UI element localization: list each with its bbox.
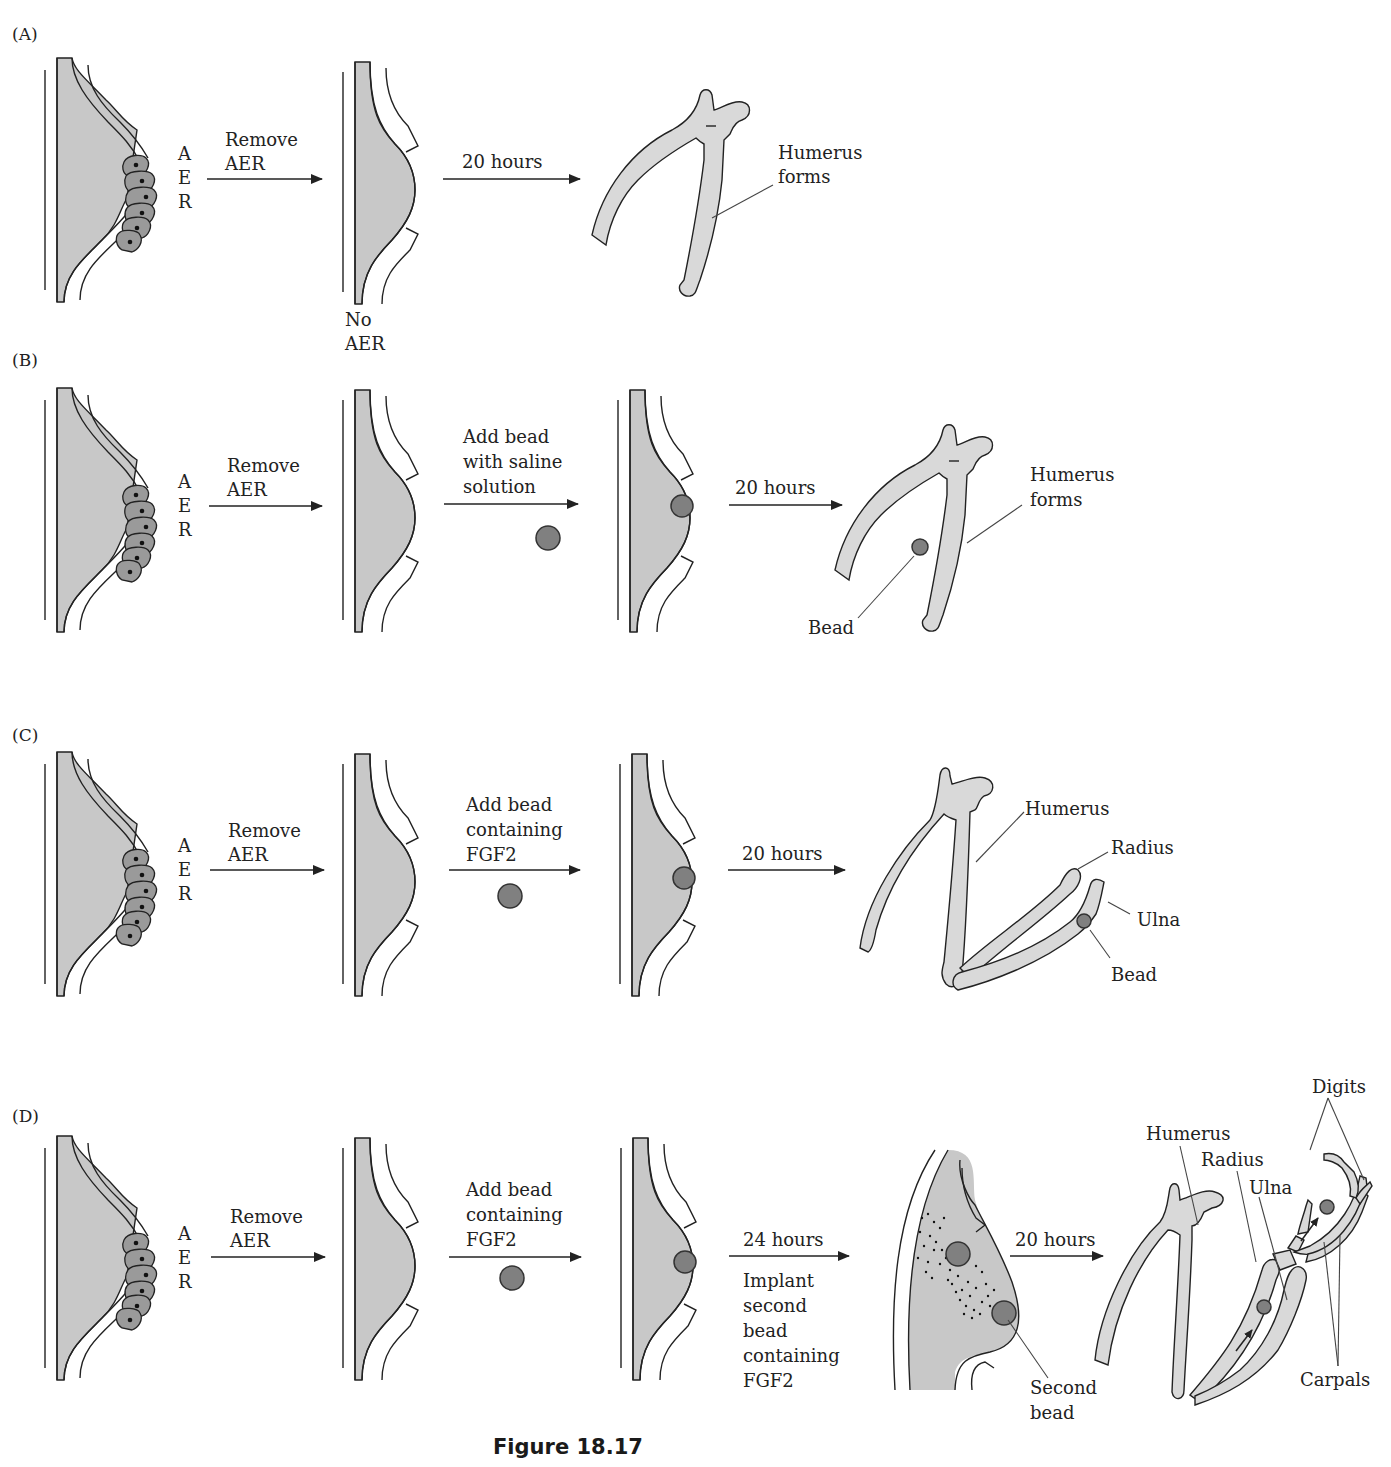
saline-bead-icon <box>536 526 560 550</box>
svg-text:Humerus: Humerus <box>1030 464 1114 485</box>
leader-line <box>967 505 1022 543</box>
svg-text:R: R <box>178 1271 192 1292</box>
second-bead-icon <box>992 1301 1016 1325</box>
leader-line <box>1338 1236 1340 1366</box>
svg-text:R: R <box>178 883 192 904</box>
bead-in-limb-icon <box>912 539 928 555</box>
svg-text:R: R <box>178 519 192 540</box>
svg-text:A: A <box>177 471 192 492</box>
ulna-label: Ulna <box>1137 909 1181 930</box>
svg-text:20 hours: 20 hours <box>735 477 816 498</box>
svg-text:FGF2: FGF2 <box>743 1370 794 1391</box>
radius-label: Radius <box>1201 1149 1264 1170</box>
svg-text:FGF2: FGF2 <box>466 1229 517 1250</box>
step-arrow-20-hours: 20 hours <box>443 151 580 179</box>
svg-text:Remove: Remove <box>230 1206 303 1227</box>
step-arrow-add-saline-bead: Add bead with saline solution <box>444 426 578 550</box>
implanted-bead-icon <box>674 1251 696 1273</box>
step-arrow-remove-aer: Remove AER <box>207 129 322 179</box>
svg-text:FGF2: FGF2 <box>466 844 517 865</box>
svg-text:A: A <box>177 1223 192 1244</box>
svg-text:Remove: Remove <box>228 820 301 841</box>
aer-label: A E R <box>177 1223 192 1292</box>
limb-bud-no-aer <box>343 62 418 304</box>
leader-line <box>1008 1320 1048 1378</box>
svg-text:A: A <box>177 835 192 856</box>
svg-text:20 hours: 20 hours <box>1015 1229 1096 1250</box>
enlarged-limb-bud: Second bead <box>893 1150 1097 1423</box>
svg-text:E: E <box>178 167 191 188</box>
svg-text:R: R <box>178 191 192 212</box>
limb-bud-with-aer <box>45 388 156 632</box>
svg-text:Remove: Remove <box>227 455 300 476</box>
humerus-label: Humerus <box>1146 1123 1230 1144</box>
humerus-forms-label: Humerus forms <box>778 142 862 187</box>
svg-text:solution: solution <box>463 476 536 497</box>
step-arrow-add-fgf2-bead: Add bead containing FGF2 <box>449 1179 581 1290</box>
svg-text:containing: containing <box>466 819 563 840</box>
svg-text:24 hours: 24 hours <box>743 1229 824 1250</box>
svg-text:E: E <box>178 495 191 516</box>
panel-b: (B) A E R Remove AER Add bead with salin… <box>12 350 1114 638</box>
implant-second-bead-label: Implant second bead containing FGF2 <box>743 1270 840 1391</box>
panel-label: (A) <box>12 24 38 44</box>
svg-text:forms: forms <box>778 166 830 187</box>
svg-text:E: E <box>178 859 191 880</box>
second-bead-label: Second bead <box>1030 1377 1097 1423</box>
no-aer-label: No AER <box>344 309 385 354</box>
svg-text:bead: bead <box>1030 1402 1074 1423</box>
svg-text:AER: AER <box>226 479 267 500</box>
svg-text:20 hours: 20 hours <box>462 151 543 172</box>
limb-bud-no-aer <box>343 390 418 632</box>
svg-text:bead: bead <box>743 1320 787 1341</box>
aer-label: A E R <box>177 143 192 212</box>
svg-text:containing: containing <box>466 1204 563 1225</box>
step-arrow-add-fgf2-bead: Add bead containing FGF2 <box>449 794 580 908</box>
humerus-bone-diagram <box>592 90 750 296</box>
svg-text:AER: AER <box>229 1230 270 1251</box>
svg-text:forms: forms <box>1030 489 1082 510</box>
aer-label: A E R <box>177 835 192 904</box>
svg-text:Remove: Remove <box>225 129 298 150</box>
figure-canvas: (A) A E R Remove AER No AER 20 hours Hum… <box>0 0 1391 1467</box>
aer-label: A E R <box>177 471 192 540</box>
panel-d: (D) A E R Remove AER Add bead containing… <box>12 1076 1372 1423</box>
limb-bud-no-aer <box>343 1138 418 1380</box>
step-arrow-remove-aer: Remove AER <box>210 820 324 870</box>
svg-text:Implant: Implant <box>743 1270 815 1291</box>
svg-text:Second: Second <box>1030 1377 1097 1398</box>
svg-text:second: second <box>743 1295 807 1316</box>
carpals-label: Carpals <box>1300 1369 1370 1390</box>
fgf2-bead-icon <box>500 1266 524 1290</box>
digits-label: Digits <box>1312 1076 1366 1097</box>
leader-line <box>1108 902 1130 914</box>
implanted-bead-icon <box>673 867 695 889</box>
svg-text:Add bead: Add bead <box>465 794 552 815</box>
step-arrow-24-hours: 24 hours Implant second bead containing … <box>729 1229 849 1391</box>
svg-text:No: No <box>345 309 372 330</box>
svg-text:with saline: with saline <box>463 451 562 472</box>
svg-text:Add bead: Add bead <box>465 1179 552 1200</box>
svg-text:E: E <box>178 1247 191 1268</box>
limb-bud-with-aer <box>45 1136 156 1380</box>
svg-text:AER: AER <box>224 153 265 174</box>
bead-label: Bead <box>808 617 854 638</box>
panel-label: (C) <box>12 725 38 745</box>
leader-line <box>858 556 914 618</box>
svg-text:Humerus: Humerus <box>778 142 862 163</box>
leader-line <box>1078 852 1108 869</box>
humerus-bone-diagram <box>835 425 993 631</box>
svg-text:containing: containing <box>743 1345 840 1366</box>
panel-label: (D) <box>12 1106 39 1126</box>
leader-line <box>1310 1098 1328 1150</box>
bead-in-limb-icon <box>1077 914 1091 928</box>
limb-bud-with-aer <box>45 58 156 302</box>
svg-text:Add bead: Add bead <box>462 426 549 447</box>
full-limb-bone-diagram <box>1095 1153 1372 1405</box>
svg-text:A: A <box>177 143 192 164</box>
step-arrow-remove-aer: Remove AER <box>209 455 322 506</box>
leader-line <box>1324 1242 1338 1366</box>
svg-text:AER: AER <box>227 844 268 865</box>
panel-c: (C) A E R Remove AER Add bead containing… <box>12 725 1181 996</box>
leader-line <box>1090 930 1110 958</box>
